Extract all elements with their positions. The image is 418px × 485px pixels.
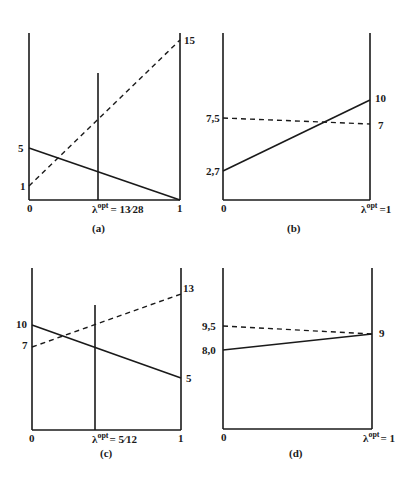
panel-d: 9,5 8,0 9 0 λopt= 1 (d)	[202, 268, 395, 460]
right-label: 13	[183, 282, 195, 294]
left-label: 7	[22, 339, 28, 351]
left-label: 8,0	[202, 344, 216, 356]
dashed-series-line	[32, 294, 181, 347]
left-label: 5	[18, 142, 24, 154]
dashed-series-line	[223, 326, 372, 334]
x-tick-0: 0	[221, 431, 227, 443]
dashed-series-line	[223, 118, 370, 124]
lambda-opt-label: λopt= 5⁄12	[92, 431, 137, 445]
panel-caption: (d)	[289, 447, 303, 460]
left-label: 10	[16, 318, 28, 330]
lambda-opt-label: λopt=1	[361, 201, 391, 215]
lambda-opt-label: λopt= 13⁄28	[92, 201, 144, 215]
solid-series-line	[29, 148, 180, 200]
left-label: 1	[20, 180, 26, 192]
panel-b: 7,5 2,7 10 7 0 λopt=1 (b)	[206, 33, 391, 235]
right-label: 10	[375, 92, 387, 104]
right-label: 9	[379, 327, 385, 339]
x-tick-0: 0	[221, 202, 227, 214]
figure-canvas: 5 1 15 0 1 λopt= 13⁄28 (a) 7,5 2,7 10 7 …	[0, 0, 418, 485]
panel-caption: (b)	[287, 222, 301, 235]
right-label: 15	[184, 34, 196, 46]
x-tick-1: 1	[178, 432, 184, 444]
left-label: 9,5	[202, 320, 216, 332]
solid-series-line	[223, 334, 372, 350]
panel-c: 10 7 13 5 0 1 λopt= 5⁄12 (c)	[16, 268, 195, 460]
x-tick-0: 0	[27, 202, 33, 214]
solid-series-line	[32, 325, 181, 378]
solid-series-line	[223, 100, 370, 171]
panel-a: 5 1 15 0 1 λopt= 13⁄28 (a)	[18, 33, 196, 235]
right-label: 5	[186, 372, 192, 384]
panel-caption: (c)	[100, 447, 113, 460]
left-label: 7,5	[206, 112, 220, 124]
right-label: 7	[378, 119, 384, 131]
x-tick-0: 0	[29, 432, 35, 444]
left-label: 2,7	[206, 165, 220, 177]
lambda-opt-label: λopt= 1	[363, 430, 395, 444]
x-tick-1: 1	[177, 202, 183, 214]
dashed-series-line	[29, 40, 180, 186]
panel-caption: (a)	[92, 222, 105, 235]
